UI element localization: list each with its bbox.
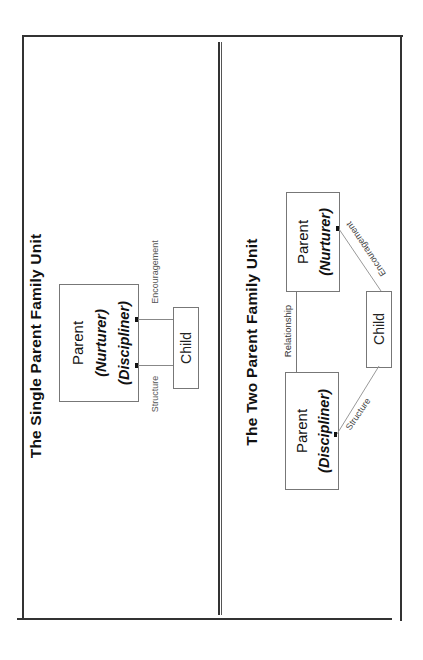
two-parent-diagonal-connectors: [0, 0, 423, 660]
